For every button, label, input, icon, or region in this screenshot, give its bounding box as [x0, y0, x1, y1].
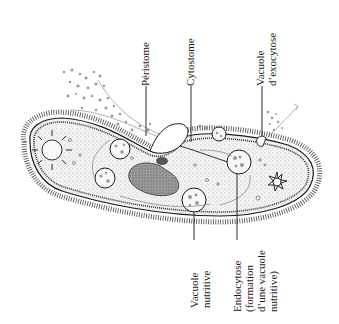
food-vacuole-line-2: nutritive [200, 271, 212, 308]
cytostome-text: Cytostome [184, 38, 196, 86]
endocytosis-line-4: nutritive) [267, 250, 279, 312]
label-cytostome: Cytostome [184, 38, 196, 86]
paramecium-diagram: Péristome Cytostome Vacuole d’exocytose … [0, 0, 339, 324]
label-peristome: Péristome [139, 42, 151, 86]
label-food-vacuole: Vacuole nutritive [188, 271, 212, 308]
endocytosis-line-3: d’une vacuole [255, 250, 267, 312]
endocytosis-line-1: Endocytose [231, 250, 243, 312]
label-exocytosis-vacuole: Vacuole d’exocytose [254, 33, 278, 86]
food-vacuole-line-1: Vacuole [188, 271, 200, 308]
peristome-text: Péristome [139, 42, 151, 86]
label-endocytosis: Endocytose (formation d’une vacuole nutr… [231, 250, 279, 312]
contractile-vacuole-left [32, 130, 72, 170]
paramecium-illustration [0, 0, 339, 324]
endocytosis-line-2: (formation [243, 250, 255, 312]
exocytosis-line-1: Vacuole [254, 33, 266, 86]
expelled-particles [267, 111, 283, 131]
exocytosis-line-2: d’exocytose [266, 33, 278, 86]
micronucleus [156, 157, 168, 165]
